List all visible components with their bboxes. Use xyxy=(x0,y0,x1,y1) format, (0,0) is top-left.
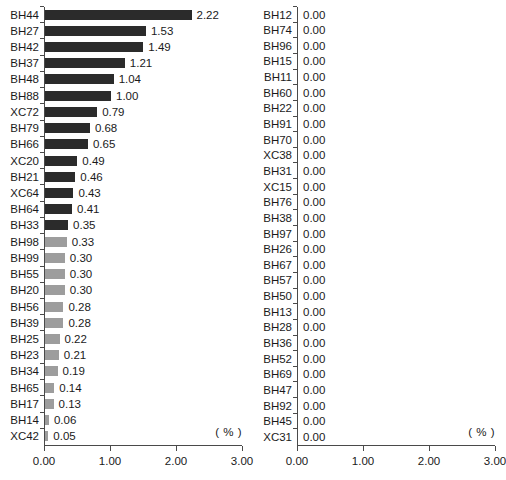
x-axis-tick-label: 3.00 xyxy=(484,454,506,468)
bar xyxy=(45,220,68,230)
bar-row: BH570.00 xyxy=(297,273,495,289)
category-label: BH88 xyxy=(10,89,39,103)
y-axis-tick xyxy=(293,69,297,70)
y-axis-tick xyxy=(293,366,297,367)
figure-caption xyxy=(0,477,502,480)
y-axis-tick xyxy=(40,266,44,267)
x-axis-tick-mark xyxy=(363,446,364,451)
bar xyxy=(45,269,65,279)
bar-value-label: 0.49 xyxy=(82,154,104,168)
x-axis-tick-mark xyxy=(110,446,111,451)
bar xyxy=(45,26,146,36)
bar-rows-left: BH442.22BH271.53BH421.49BH371.21BH481.04… xyxy=(44,7,242,445)
bar-value-label: 0.00 xyxy=(303,133,325,147)
y-axis-tick xyxy=(40,298,44,299)
bar-value-label: 0.00 xyxy=(303,117,325,131)
category-label: BH31 xyxy=(263,164,292,178)
y-axis-tick xyxy=(40,22,44,23)
bar-row: XC420.05 xyxy=(44,429,242,445)
bar-row: BH380.00 xyxy=(297,210,495,226)
y-axis-tick xyxy=(40,330,44,331)
y-axis-tick xyxy=(40,347,44,348)
bar-value-label: 0.00 xyxy=(303,320,325,334)
chart-panel-right: BH120.00BH740.00BH960.00BH150.00BH110.00… xyxy=(251,0,502,480)
y-axis-tick xyxy=(40,201,44,202)
bar-value-label: 1.21 xyxy=(130,56,152,70)
bar-value-label: 0.30 xyxy=(70,283,92,297)
category-label: BH55 xyxy=(10,267,39,281)
y-axis-tick xyxy=(40,428,44,429)
bar-value-label: 0.35 xyxy=(73,218,95,232)
y-axis-tick xyxy=(40,55,44,56)
bar-value-label: 0.00 xyxy=(303,101,325,115)
bar-value-label: 0.00 xyxy=(303,180,325,194)
bar-row: BH340.19 xyxy=(44,364,242,380)
category-label: BH69 xyxy=(263,367,292,381)
bar-value-label: 0.00 xyxy=(303,383,325,397)
y-axis-tick xyxy=(293,100,297,101)
category-label: BH27 xyxy=(10,24,39,38)
category-label: BH45 xyxy=(263,414,292,428)
bar-value-label: 0.14 xyxy=(59,381,81,395)
bar-row: XC720.79 xyxy=(44,104,242,120)
bar-row: XC310.00 xyxy=(297,429,495,445)
category-label: BH13 xyxy=(263,305,292,319)
bar-value-label: 0.00 xyxy=(303,289,325,303)
bar-row: BH600.00 xyxy=(297,85,495,101)
y-axis-tick xyxy=(293,162,297,163)
category-label: BH64 xyxy=(10,202,39,216)
bar-row: BH330.35 xyxy=(44,218,242,234)
category-label: BH42 xyxy=(10,40,39,54)
category-label: BH17 xyxy=(10,397,39,411)
bar xyxy=(45,253,65,263)
x-axis-tick-mark xyxy=(429,446,430,451)
x-axis-tick-label: 1.00 xyxy=(99,454,121,468)
bar-value-label: 0.00 xyxy=(303,164,325,178)
bar-row: XC150.00 xyxy=(297,179,495,195)
unit-label-left: ( % ) xyxy=(215,425,242,439)
bar-value-label: 0.30 xyxy=(70,251,92,265)
category-label: XC31 xyxy=(263,430,292,444)
y-axis-tick xyxy=(293,288,297,289)
category-label: BH21 xyxy=(10,170,39,184)
bar-row: BH230.21 xyxy=(44,348,242,364)
bar xyxy=(45,204,72,214)
bar-row: BH140.06 xyxy=(44,413,242,429)
category-label: BH23 xyxy=(10,348,39,362)
category-label: BH48 xyxy=(10,72,39,86)
y-axis-tick xyxy=(40,395,44,396)
bar xyxy=(45,334,60,344)
bar xyxy=(45,237,67,247)
category-label: BH66 xyxy=(10,137,39,151)
category-label: BH67 xyxy=(263,258,292,272)
bar-value-label: 0.28 xyxy=(68,300,90,314)
y-axis-tick xyxy=(40,379,44,380)
bar-value-label: 0.00 xyxy=(303,70,325,84)
bar-row: BH250.22 xyxy=(44,331,242,347)
bar-value-label: 0.00 xyxy=(303,273,325,287)
category-label: BH99 xyxy=(10,251,39,265)
bar-row: BH960.00 xyxy=(297,38,495,54)
bar-value-label: 0.43 xyxy=(78,186,100,200)
category-label: BH96 xyxy=(263,39,292,53)
bar xyxy=(45,91,111,101)
category-label: BH47 xyxy=(263,383,292,397)
y-axis-tick xyxy=(293,53,297,54)
category-label: BH91 xyxy=(263,117,292,131)
bar-row: BH550.30 xyxy=(44,267,242,283)
bar xyxy=(45,58,125,68)
bar-value-label: 0.00 xyxy=(303,211,325,225)
y-axis-tick xyxy=(293,319,297,320)
bar-row: BH790.68 xyxy=(44,121,242,137)
y-axis-tick xyxy=(293,272,297,273)
category-label: XC64 xyxy=(10,186,39,200)
category-label: BH79 xyxy=(10,121,39,135)
y-axis-tick xyxy=(293,225,297,226)
x-axis-tick-mark xyxy=(176,446,177,451)
y-axis-tick xyxy=(40,152,44,153)
bar-value-label: 0.00 xyxy=(303,54,325,68)
category-label: BH76 xyxy=(263,195,292,209)
bar-value-label: 0.00 xyxy=(303,414,325,428)
y-axis-tick xyxy=(293,194,297,195)
